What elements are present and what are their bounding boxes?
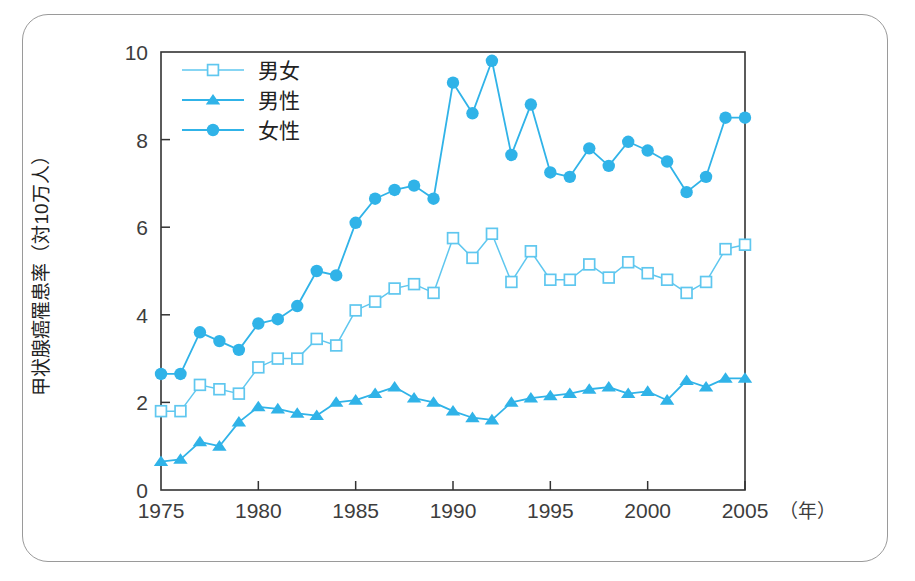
data-point xyxy=(349,217,361,229)
legend-marker xyxy=(207,124,219,136)
data-point xyxy=(642,268,653,279)
y-axis-tick-label: 10 xyxy=(125,41,148,64)
y-axis-tick-label: 2 xyxy=(136,391,148,414)
data-point xyxy=(195,379,206,390)
x-axis-unit-label: （年） xyxy=(779,501,836,522)
legend-label: 女性 xyxy=(258,119,300,142)
data-point xyxy=(448,233,459,244)
data-point xyxy=(623,257,634,268)
x-axis-tick-label: 1975 xyxy=(138,499,185,522)
data-point xyxy=(388,184,400,196)
data-point xyxy=(174,368,186,380)
y-axis-title: 甲状腺癌罹患率（対10万人） xyxy=(31,146,52,395)
data-point xyxy=(233,344,245,356)
x-axis-tick-label: 1985 xyxy=(332,499,379,522)
data-point xyxy=(719,112,731,124)
data-point xyxy=(446,405,460,416)
data-point xyxy=(409,279,420,290)
data-point xyxy=(564,274,575,285)
data-point xyxy=(213,335,225,347)
data-point xyxy=(525,98,537,110)
data-point xyxy=(330,269,342,281)
x-axis-tick-label: 2000 xyxy=(624,499,671,522)
data-point xyxy=(701,277,712,288)
data-point xyxy=(505,149,517,161)
data-point xyxy=(603,160,615,172)
data-point xyxy=(640,385,654,396)
data-point xyxy=(292,353,303,364)
data-point xyxy=(175,406,186,417)
data-point xyxy=(311,333,322,344)
data-point xyxy=(214,384,225,395)
data-point xyxy=(487,228,498,239)
data-point xyxy=(584,259,595,270)
data-point xyxy=(370,296,381,307)
data-point xyxy=(661,155,673,167)
data-point xyxy=(350,305,361,316)
y-axis-tick-label: 4 xyxy=(136,304,148,327)
data-point xyxy=(545,274,556,285)
legend: 男女男性女性 xyxy=(182,59,300,142)
data-point xyxy=(564,171,576,183)
data-point xyxy=(389,283,400,294)
data-point xyxy=(739,112,751,124)
legend-marker xyxy=(208,65,219,76)
data-point xyxy=(641,144,653,156)
series-3 xyxy=(155,55,751,381)
data-point xyxy=(681,288,692,299)
data-point xyxy=(155,368,167,380)
legend-label: 男女 xyxy=(258,59,300,82)
data-point xyxy=(506,277,517,288)
data-point xyxy=(291,300,303,312)
data-point xyxy=(253,362,264,373)
plot-frame xyxy=(161,52,745,490)
data-point xyxy=(525,246,536,257)
data-point xyxy=(447,76,459,88)
data-point xyxy=(466,107,478,119)
data-point xyxy=(311,265,323,277)
y-axis-tick-label: 6 xyxy=(136,216,148,239)
series-line xyxy=(161,378,745,461)
x-axis-tick-label: 2005 xyxy=(722,499,769,522)
series-line xyxy=(161,234,745,411)
data-point xyxy=(407,392,421,403)
legend-label: 男性 xyxy=(258,89,300,112)
data-point xyxy=(700,171,712,183)
x-axis-tick-label: 1980 xyxy=(235,499,282,522)
data-point xyxy=(662,274,673,285)
data-point xyxy=(679,374,693,385)
data-point xyxy=(720,244,731,255)
data-point xyxy=(680,186,692,198)
data-point xyxy=(428,288,439,299)
data-point xyxy=(272,353,283,364)
data-point xyxy=(251,401,265,412)
x-axis-tick-label: 1990 xyxy=(430,499,477,522)
data-point xyxy=(467,252,478,263)
figure-root: 02468101975198019851990199520002005甲状腺癌罹… xyxy=(0,0,915,581)
data-point xyxy=(252,317,264,329)
data-point xyxy=(544,166,556,178)
data-point xyxy=(622,136,634,148)
y-axis-tick-label: 8 xyxy=(136,129,148,152)
data-point xyxy=(272,313,284,325)
data-point xyxy=(408,179,420,191)
data-point xyxy=(387,381,401,392)
data-point xyxy=(583,142,595,154)
data-point xyxy=(603,272,614,283)
thyroid-incidence-line-chart: 02468101975198019851990199520002005甲状腺癌罹… xyxy=(0,0,915,581)
data-point xyxy=(427,193,439,205)
x-axis-tick-label: 1995 xyxy=(527,499,574,522)
data-point xyxy=(331,340,342,351)
data-point xyxy=(233,388,244,399)
series-line xyxy=(161,61,745,374)
series-1 xyxy=(156,228,751,416)
data-point xyxy=(193,436,207,447)
data-point xyxy=(369,193,381,205)
data-point xyxy=(156,406,167,417)
data-point xyxy=(740,239,751,250)
data-point xyxy=(602,381,616,392)
data-point xyxy=(486,55,498,67)
data-point xyxy=(194,326,206,338)
